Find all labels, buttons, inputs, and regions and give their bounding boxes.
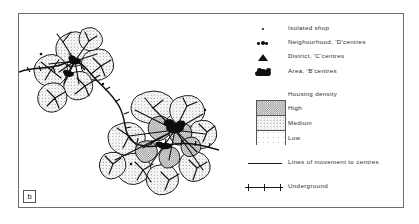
area-centre-blob-icon	[240, 67, 286, 77]
density-swatch-medium	[257, 116, 285, 131]
legend-label-neighbourhood-centre: Neighourhood, 'D'centres	[286, 38, 366, 46]
map-cells-northwest	[34, 28, 114, 113]
legend-item-district-centre: District, 'C'centres	[240, 52, 344, 62]
legend-item-density-medium: Medium	[286, 119, 312, 127]
underground-line-icon	[242, 182, 286, 192]
legend-item-density-low: Low	[286, 134, 300, 142]
legend-item-density-high: High	[286, 104, 302, 112]
legend: Isolated shop Neighourhood, 'D'centres D…	[240, 24, 404, 204]
legend-item-isolated-shop: Isolated shop	[240, 24, 329, 34]
legend-item-movement-lines: Lines of movement to centres	[244, 158, 384, 168]
legend-label-underground: Underground	[286, 182, 328, 190]
isolated-shop-dot-icon	[240, 24, 286, 34]
panel-label: b	[23, 190, 36, 203]
legend-item-underground: Underground	[242, 182, 328, 192]
legend-label-area-centre: Area, 'B'centres	[286, 67, 337, 75]
movement-line-icon	[244, 158, 286, 168]
housing-density-key	[256, 100, 286, 145]
map-drawing	[19, 14, 219, 207]
legend-label-movement-lines: Lines of movement to centres	[286, 158, 384, 166]
figure-panel: b Isolated shop Neighourhood, 'D'centres…	[0, 0, 419, 224]
legend-label-isolated-shop: Isolated shop	[286, 24, 329, 32]
density-swatch-low	[257, 131, 285, 146]
legend-housing-density-title: Housing density	[286, 90, 337, 98]
density-swatch-high	[257, 101, 285, 116]
legend-item-area-centre: Area, 'B'centres	[240, 67, 337, 77]
neighbourhood-centre-cluster-icon	[240, 38, 286, 48]
legend-label-district-centre: District, 'C'centres	[286, 52, 344, 60]
map-area	[19, 14, 219, 207]
district-centre-triangle-icon	[240, 52, 286, 62]
legend-item-neighbourhood-centre: Neighourhood, 'D'centres	[240, 38, 366, 48]
